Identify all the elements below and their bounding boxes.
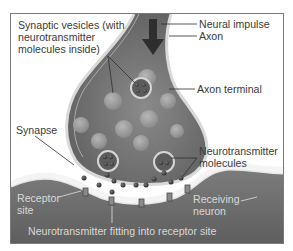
diagram-frame: Synaptic vesicles (with neurotransmitter…: [10, 13, 284, 244]
vesicle-with-molecules: [131, 78, 151, 98]
label-receiving-neuron: Receiving neuron: [193, 193, 240, 217]
vesicle-fusing-right: [154, 152, 174, 172]
label-neurotransmitter-fitting: Neurotransmitter fitting into receptor s…: [28, 225, 216, 237]
label-receptor-site: Receptor site: [17, 192, 60, 216]
label-neurotransmitter-molecules: Neurotransmitter molecules: [199, 145, 278, 169]
label-neural-impulse: Neural impulse: [199, 18, 270, 30]
label-synapse: Synapse: [16, 124, 57, 136]
label-synaptic-vesicles: Synaptic vesicles (with neurotransmitter…: [18, 19, 125, 55]
vesicle-fusing-left: [98, 151, 118, 171]
label-axon: Axon: [199, 30, 223, 42]
label-axon-terminal: Axon terminal: [197, 83, 262, 95]
